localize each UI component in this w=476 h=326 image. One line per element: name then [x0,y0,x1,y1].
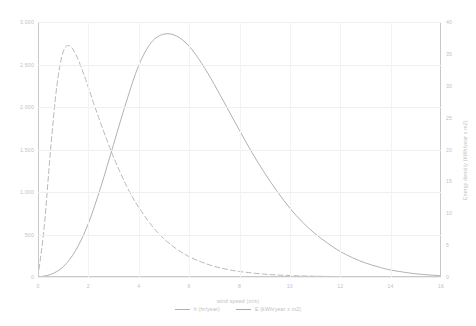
gridline-vertical [391,22,392,277]
gridline-vertical [340,22,341,277]
y-axis-right-tick-label: 30 [446,83,470,89]
x-axis-tick-label: 4 [127,283,151,289]
y-axis-right-tick-label: 40 [446,19,470,25]
x-axis-tick-label: 10 [278,283,302,289]
y-axis-left-tick-label: 1.500 [4,147,34,153]
y-axis-right-title: Energy density (kWh/year x m2) [462,120,468,200]
x-axis-tick-label: 8 [228,283,252,289]
y-axis-left-tick-label: 0 [4,274,34,280]
x-axis-tick-label: 2 [76,283,100,289]
y-axis-left-tick-label: 1.000 [4,189,34,195]
gridline-vertical [88,22,89,277]
gridline-vertical [290,22,291,277]
legend-item[interactable]: E (kWh/year x m2) [236,306,301,312]
y-axis-left-tick-label: 2.500 [4,62,34,68]
gridline-vertical [189,22,190,277]
legend-swatch-icon [236,309,251,310]
y-axis-left-tick-label: 2.000 [4,104,34,110]
legend-label: h (hr/year) [194,306,220,312]
wind-distribution-chart: 05001.0001.5002.0002.5003.000 0510152025… [0,0,476,326]
x-axis-tick-label: 14 [379,283,403,289]
gridline-vertical [139,22,140,277]
y-axis-right-tick-label: 35 [446,51,470,57]
gridline-horizontal [38,277,441,278]
x-axis-tick-label: 12 [328,283,352,289]
plot-area [38,22,441,277]
x-axis-tick-label: 16 [429,283,453,289]
y-axis-left-tick-label: 500 [4,232,34,238]
legend-label: E (kWh/year x m2) [255,306,301,312]
x-axis-tick-label: 0 [26,283,50,289]
gridline-vertical [240,22,241,277]
legend-swatch-icon [175,309,190,310]
y-axis-right-tick-label: 10 [446,210,470,216]
y-axis-right-tick-label: 0 [446,274,470,280]
x-axis-title: wind speed (m/s) [0,298,476,304]
y-axis-left-tick-label: 3.000 [4,19,34,25]
y-axis-right-tick-label: 5 [446,242,470,248]
chart-legend: h (hr/year)E (kWh/year x m2) [0,306,476,312]
legend-item[interactable]: h (hr/year) [175,306,220,312]
x-axis-tick-label: 6 [177,283,201,289]
